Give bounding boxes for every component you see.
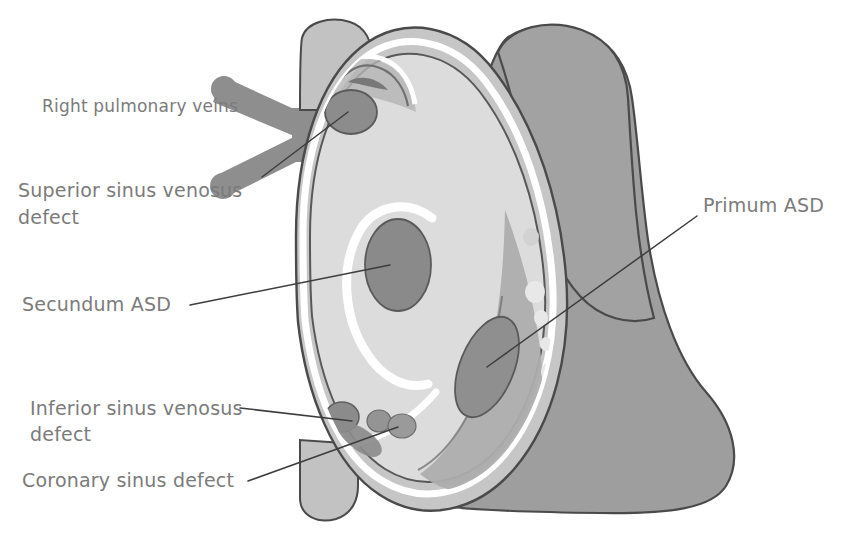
asd-diagram-figure: Right pulmonary veins Superior sinus ven… bbox=[0, 0, 847, 536]
label-inferior-sinus-venosus-defect: Inferior sinus venosus bbox=[30, 397, 243, 419]
label-superior-sinus-venosus-defect-line2: defect bbox=[18, 206, 79, 228]
label-right-pulmonary-veins: Right pulmonary veins bbox=[42, 96, 238, 116]
defect-secundum-asd bbox=[365, 219, 431, 311]
label-superior-sinus-venosus-defect: Superior sinus venosus bbox=[18, 179, 242, 201]
label-inferior-sinus-venosus-defect-line2: defect bbox=[30, 423, 91, 445]
diagram-canvas: Right pulmonary veins Superior sinus ven… bbox=[0, 0, 847, 536]
label-coronary-sinus-defect: Coronary sinus defect bbox=[22, 469, 234, 491]
label-secundum-asd: Secundum ASD bbox=[22, 293, 171, 315]
label-primum-asd: Primum ASD bbox=[703, 194, 824, 216]
defect-superior-sinus-venosus bbox=[325, 90, 377, 134]
